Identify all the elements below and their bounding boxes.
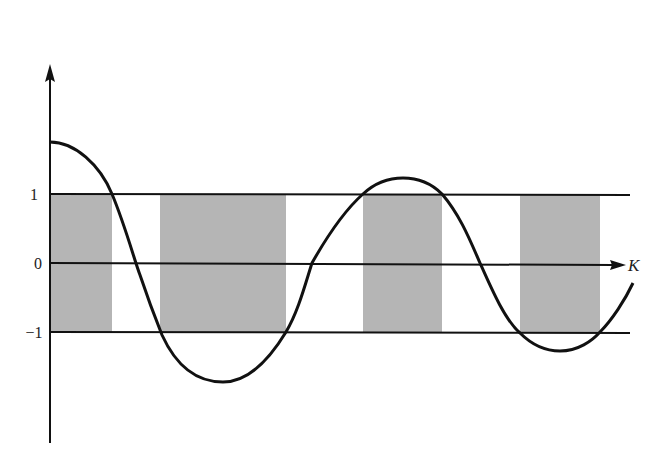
band-structure-diagram: 1 0 −1 K — [0, 0, 659, 469]
line-y-minus-1 — [50, 332, 630, 333]
y-label-1: 1 — [30, 186, 38, 203]
band-4 — [520, 194, 600, 332]
line-y-1 — [50, 194, 630, 195]
y-label-0: 0 — [34, 255, 42, 272]
y-label-minus-1: −1 — [25, 324, 42, 341]
band-3 — [363, 194, 442, 332]
x-axis-label: K — [627, 256, 641, 275]
x-axis-arrow-icon — [610, 260, 626, 270]
